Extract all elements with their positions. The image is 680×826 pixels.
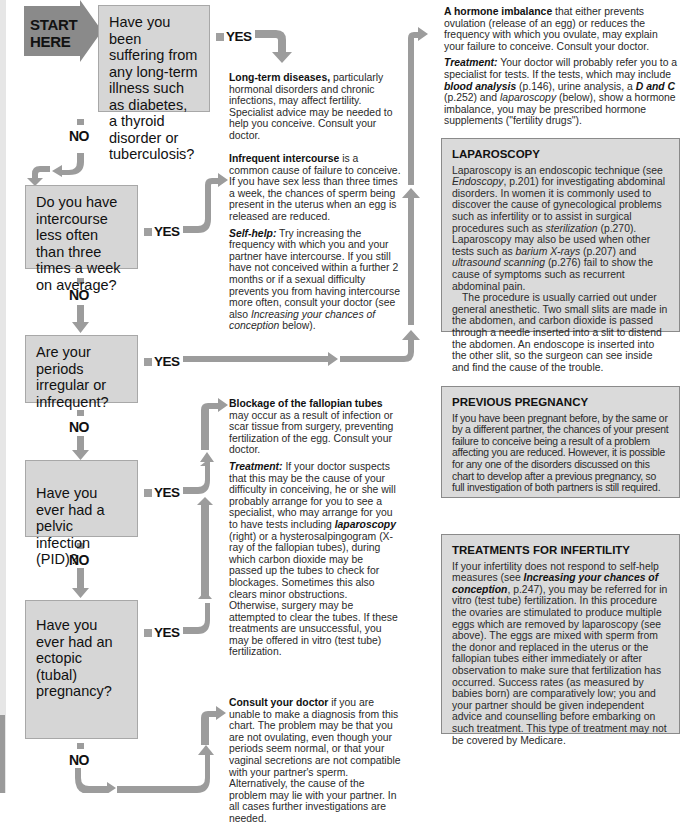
sidebar-previous-pregnancy: PREVIOUS PREGNANCY If you have been preg… <box>441 386 680 498</box>
yes-label-q1: YES <box>216 27 252 45</box>
question-ectopic-pregnancy: Have you ever had an ectopic (tubal) pre… <box>25 600 138 739</box>
no-label-q1: NO <box>69 128 89 144</box>
sidebar-treatments-for-infertility: TREATMENTS FOR INFERTILITY If your infer… <box>441 534 680 734</box>
link-d-and-c[interactable]: D and C <box>636 81 675 92</box>
link-laparoscopy-below[interactable]: laparoscopy <box>500 92 556 103</box>
yes-label-q3: YES <box>144 352 180 370</box>
yes-label-q4: YES <box>144 483 180 501</box>
link-ultrasound[interactable]: ultrasound scanning <box>452 257 545 268</box>
yes-marker-icon <box>144 489 152 497</box>
link-sterilization[interactable]: sterilization <box>546 223 598 234</box>
link-laparoscopy[interactable]: laparoscopy <box>335 519 396 530</box>
yes-marker-icon <box>216 33 224 41</box>
yes-marker-icon <box>144 629 152 637</box>
no-label-q4: NO <box>69 552 89 568</box>
yes-marker-icon <box>144 228 152 236</box>
question-intercourse-frequency: Do you have intercourse less often than … <box>25 185 138 269</box>
question-long-term-illness: Have you been suffering from any long-te… <box>98 5 210 112</box>
outcome-fallopian-blockage: Blockage of the fallopian tubes may occu… <box>229 398 399 663</box>
link-barium-xrays[interactable]: barium X-rays <box>516 246 581 257</box>
question-pelvic-infection: Have you ever had a pelvic infection (PI… <box>25 460 138 537</box>
sidebar-laparoscopy: LAPAROSCOPY Laparoscopy is an endoscopic… <box>441 138 680 332</box>
link-endoscopy[interactable]: Endoscopy <box>452 176 503 187</box>
yes-label-q2: YES <box>144 222 180 240</box>
link-blood-analysis[interactable]: blood analysis <box>444 81 516 92</box>
question-irregular-periods: Are your periods irregular or infrequent… <box>25 335 138 403</box>
outcome-consult-doctor: Consult your doctor if you are unable to… <box>229 697 401 826</box>
yes-label-q5: YES <box>144 623 180 641</box>
no-label-q5: NO <box>69 752 89 768</box>
outcome-infrequent-intercourse: Infrequent intercourse is a common cause… <box>229 153 401 337</box>
start-here-label: START HERE <box>30 16 77 50</box>
no-label-q2: NO <box>69 287 89 303</box>
yes-marker-icon <box>144 358 152 366</box>
no-label-q3: NO <box>69 419 89 435</box>
outcome-long-term-diseases: Long-term diseases, particularly hormona… <box>229 72 399 147</box>
outcome-hormone-imbalance: A hormone imbalance that either prevents… <box>444 6 678 132</box>
